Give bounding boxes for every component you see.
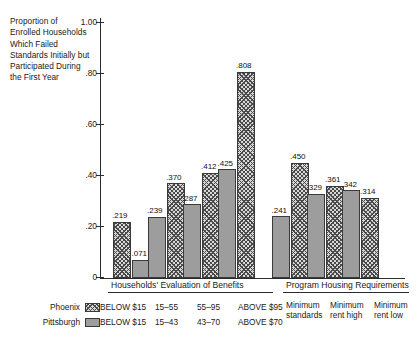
- bar-value-label: .219: [112, 212, 128, 220]
- bar-pittsburgh-5: [307, 194, 325, 278]
- bar-value-label: .808: [236, 62, 252, 70]
- requirement-category: Minimumstandards: [286, 301, 322, 320]
- plot-area: 0.20.40.60.801.00 .219.071.239.370.287.4…: [100, 18, 405, 279]
- section-underline: [283, 292, 409, 293]
- bar-pittsburgh-6: [342, 190, 360, 277]
- legend-category-label: 15–43: [155, 318, 178, 327]
- bar-pittsburgh-0: [132, 260, 150, 278]
- requirement-category: Minimumrent high: [330, 301, 364, 320]
- y-tick-mark: [96, 226, 104, 227]
- bar-phoenix-0: [113, 222, 131, 278]
- section-caption: Program Housing Requirements: [286, 281, 409, 290]
- bar-value-label: .287: [182, 195, 198, 203]
- y-axis-line: [100, 18, 101, 279]
- requirement-label-line2: rent high: [330, 311, 364, 321]
- bar-value-label: .314: [360, 188, 376, 196]
- legend-swatch-phoenix: [85, 303, 100, 313]
- y-tick-label: .40: [85, 171, 97, 179]
- bar-phoenix-4: [291, 163, 309, 278]
- bar-phoenix-2: [202, 173, 220, 278]
- legend-category-label: ABOVE $70: [238, 318, 283, 327]
- section-underline: [108, 292, 273, 293]
- bar-value-label: .361: [325, 176, 341, 184]
- bar-pittsburgh-3: [218, 169, 236, 277]
- legend-category-label: 43–70: [197, 318, 220, 327]
- x-axis-line: [100, 278, 405, 280]
- bar-pittsburgh-4: [272, 216, 290, 277]
- bar-value-label: .412: [201, 163, 217, 171]
- bar-value-label: .425: [218, 160, 234, 168]
- requirement-category: Minimumrent low: [374, 301, 408, 320]
- legend-swatch-pittsburgh: [85, 318, 100, 328]
- y-axis-caption: Proportion of Enrolled Households Which …: [10, 16, 90, 84]
- y-tick-mark: [96, 124, 104, 125]
- bar-value-label: .342: [342, 181, 358, 189]
- legend-series-name-phoenix: Phoenix: [18, 303, 80, 312]
- bar-value-label: .329: [307, 184, 323, 192]
- legend-series-name-pittsburgh: Pittsburgh: [18, 318, 80, 327]
- bar-value-label: .241: [272, 207, 288, 215]
- bar-chart-figure: Proportion of Enrolled Households Which …: [0, 0, 417, 347]
- bar-phoenix-5: [326, 186, 344, 278]
- requirement-label-line2: rent low: [374, 311, 408, 321]
- requirement-label-line2: standards: [286, 311, 322, 321]
- legend-category-label: BELOW $15: [100, 303, 146, 312]
- bar-value-label: .370: [166, 174, 182, 182]
- bar-value-label: .239: [147, 207, 163, 215]
- y-tick-mark: [96, 277, 104, 278]
- bar-pittsburgh-1: [148, 217, 166, 278]
- legend-category-label: BELOW $15: [100, 318, 146, 327]
- y-tick-mark: [96, 175, 104, 176]
- section-caption: Households' Evaluation of Benefits: [111, 281, 244, 290]
- legend-category-label: 15–55: [155, 303, 178, 312]
- y-tick-label: .60: [85, 120, 97, 128]
- y-tick-label: 0: [92, 273, 97, 281]
- legend-category-label: ABOVE $95: [238, 303, 283, 312]
- bar-phoenix-3: [237, 72, 255, 278]
- y-tick-mark: [96, 22, 104, 23]
- y-tick-mark: [96, 73, 104, 74]
- bar-value-label: .450: [290, 153, 306, 161]
- legend-category-label: 55–95: [197, 303, 220, 312]
- bar-phoenix-6: [361, 198, 379, 278]
- y-tick-label: .20: [85, 222, 97, 230]
- bar-pittsburgh-2: [183, 204, 201, 277]
- y-tick-label: 1.00: [81, 18, 97, 26]
- y-tick-label: .80: [85, 69, 97, 77]
- bar-value-label: .071: [132, 250, 148, 258]
